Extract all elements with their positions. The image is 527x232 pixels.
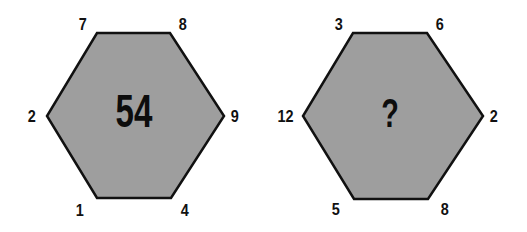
hexagon-right-center-value: ? [370,93,410,133]
hexagon-left-right-value: 9 [231,108,239,125]
puzzle-canvas [0,0,527,232]
hexagon-left-left-value: 2 [28,108,36,125]
hexagon-right-bottom-left-value: 5 [332,201,340,218]
hexagon-right-bottom-right-value: 8 [441,201,449,218]
hexagon-left-top-left-value: 7 [79,16,87,33]
hexagon-left-center-value: 54 [110,88,159,134]
hexagon-right-left-value: 12 [277,108,293,125]
hexagon-left-top-right-value: 8 [179,16,187,33]
hexagon-right-top-left-value: 3 [335,16,343,33]
hexagon-right-top-right-value: 6 [436,16,444,33]
hexagon-left-bottom-left-value: 1 [76,202,84,219]
hexagon-right-right-value: 2 [490,108,498,125]
hexagon-left-bottom-right-value: 4 [181,202,189,219]
